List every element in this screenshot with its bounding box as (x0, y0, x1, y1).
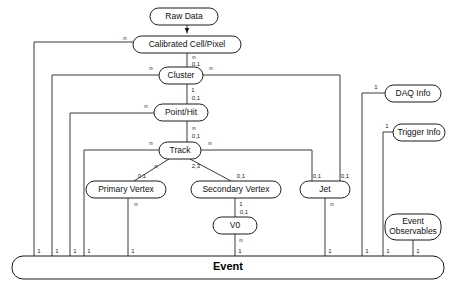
card-ev-1i: 1 (386, 248, 390, 254)
node-calibrated_cell-label: Calibrated Cell/Pixel (149, 39, 226, 49)
card-cluster-left-n: n (149, 65, 152, 71)
edge-track-right-jet (201, 150, 312, 181)
card-cluster-down-1: 1 (191, 87, 195, 93)
node-event_observables[interactable]: EventObservables (385, 214, 441, 240)
card-cal-n: n (123, 35, 126, 41)
edge-cluster-left-event (52, 75, 159, 256)
card-track-01: 0,1 (192, 133, 201, 139)
card-pv-n: n (154, 163, 157, 169)
card-ev-1h: 1 (365, 248, 369, 254)
node-track[interactable]: Track (159, 142, 201, 159)
node-raw_data[interactable]: Raw Data (150, 8, 218, 25)
node-calibrated_cell[interactable]: Calibrated Cell/Pixel (133, 36, 241, 53)
card-ev-1b: 1 (55, 248, 59, 254)
nodes-layer: Raw DataCalibrated Cell/PixelClusterPoin… (12, 8, 445, 279)
edge-cluster-right-jet (203, 75, 340, 181)
card-ev-1g: 1 (328, 248, 332, 254)
card-v0-down-n: n (239, 237, 242, 243)
card-daq-1: 1 (374, 84, 378, 90)
edge-daq-event (362, 93, 385, 256)
node-trigger_info[interactable]: Trigger Info (393, 124, 445, 141)
event-data-model-diagram: Raw DataCalibrated Cell/PixelClusterPoin… (0, 0, 456, 293)
node-primary_vertex[interactable]: Primary Vertex (86, 181, 166, 198)
card-ev-1a: 1 (37, 248, 41, 254)
node-point_hit[interactable]: Point/Hit (154, 104, 208, 121)
node-cluster-label: Cluster (168, 70, 195, 80)
node-event_observables-label: Event (402, 216, 424, 226)
card-point-left-n: n (144, 103, 147, 109)
card-point-down-n: n (192, 125, 195, 131)
node-event_observables-label: Observables (389, 226, 437, 236)
card-track-right-n: n (208, 140, 211, 146)
card-jet-01b: 0,1 (341, 173, 350, 179)
card-cluster-01: 0,1 (192, 61, 201, 67)
card-sv-23: 2,3 (192, 163, 201, 169)
node-daq_info[interactable]: DAQ Info (385, 85, 441, 102)
node-jet[interactable]: Jet (300, 181, 350, 198)
card-cal-down-n: n (192, 54, 195, 60)
node-daq_info-label: DAQ Info (396, 88, 431, 98)
card-sv-01: 0,1 (237, 173, 246, 179)
node-cluster[interactable]: Cluster (159, 67, 203, 84)
card-track-left-n: n (149, 140, 152, 146)
node-trigger_info-label: Trigger Info (397, 127, 440, 137)
diagram-canvas: Raw DataCalibrated Cell/PixelClusterPoin… (0, 0, 456, 293)
node-secondary_vertex[interactable]: Secondary Vertex (191, 181, 281, 198)
node-point_hit-label: Point/Hit (165, 107, 198, 117)
card-ev-1d: 1 (87, 248, 91, 254)
card-jet-down-n: n (330, 201, 333, 207)
node-event[interactable]: Event (12, 256, 444, 279)
node-secondary_vertex-label: Secondary Vertex (202, 184, 270, 194)
card-ev-1c: 1 (73, 248, 77, 254)
node-primary_vertex-label: Primary Vertex (98, 184, 154, 194)
card-trigger-1: 1 (385, 123, 389, 129)
card-pv-01: 0,1 (138, 173, 147, 179)
node-raw_data-label: Raw Data (165, 11, 203, 21)
node-event-label: Event (213, 260, 243, 272)
card-ev-1j: 1 (416, 248, 420, 254)
card-pv-down-n: n (134, 201, 137, 207)
node-track-label: Track (170, 145, 192, 155)
card-jet-01a: 0,1 (313, 173, 322, 179)
node-v0-label: V0 (230, 220, 241, 230)
card-cluster-right-n: n (209, 65, 212, 71)
edge-track-left-event (84, 150, 159, 256)
node-jet-label: Jet (319, 184, 331, 194)
card-v0-01: 0,1 (240, 209, 249, 215)
card-ev-1e: 1 (131, 248, 135, 254)
card-ev-1f: 1 (238, 248, 242, 254)
card-sv-down-1: 1 (239, 201, 243, 207)
node-v0[interactable]: V0 (213, 217, 257, 234)
card-point-01: 0,1 (192, 95, 201, 101)
